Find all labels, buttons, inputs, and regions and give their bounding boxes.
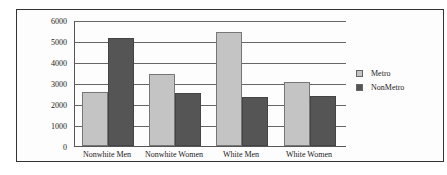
legend-label-nonmetro: NonMetro — [371, 83, 404, 92]
x-category-label: White Women — [274, 150, 344, 159]
legend-item-nonmetro: NonMetro — [356, 80, 404, 94]
legend-label-metro: Metro — [371, 69, 391, 78]
bar-metro-nonwhite-women — [149, 74, 175, 146]
gridline-6000 — [75, 21, 346, 22]
legend: Metro NonMetro — [356, 66, 404, 94]
y-tick-label: 0 — [27, 143, 67, 152]
y-tick-label: 1000 — [27, 122, 67, 131]
bar-metro-white-women — [284, 82, 310, 146]
x-category-label: Nonwhite Women — [139, 150, 209, 159]
bar-nonmetro-white-men — [242, 97, 268, 146]
plot-area: 6000 5000 4000 3000 2000 1000 0 — [74, 21, 346, 147]
bar-nonmetro-nonwhite-men — [108, 38, 134, 146]
legend-swatch-metro — [356, 70, 363, 77]
x-category-label: White Men — [206, 150, 276, 159]
y-tick-label: 2000 — [27, 101, 67, 110]
bar-nonmetro-white-women — [310, 96, 336, 146]
y-tick-label: 6000 — [27, 17, 67, 26]
y-tick-label: 3000 — [27, 80, 67, 89]
bar-metro-white-men — [216, 32, 242, 146]
y-tick-label: 5000 — [27, 38, 67, 47]
legend-item-metro: Metro — [356, 66, 404, 80]
bar-nonmetro-nonwhite-women — [175, 93, 201, 146]
bar-metro-nonwhite-men — [82, 92, 108, 146]
legend-swatch-nonmetro — [356, 84, 363, 91]
x-category-label: Nonwhite Men — [72, 150, 142, 159]
y-tick-label: 4000 — [27, 59, 67, 68]
